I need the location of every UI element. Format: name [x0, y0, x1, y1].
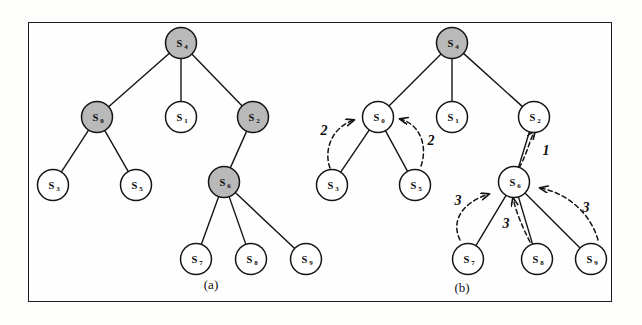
tree-edge [61, 130, 88, 172]
node-subscript: 3 [56, 185, 60, 193]
nodes-layer: S4S0S1S2S3S5S6S7S8S9S4S0S1S2S3S5S6S7S8S9 [38, 28, 607, 275]
tree-edge [229, 197, 246, 245]
node-label: S [247, 254, 253, 265]
tree-edge [105, 130, 129, 171]
node-label: S [192, 254, 198, 265]
node-label: S [49, 180, 55, 191]
node-subscript: 2 [256, 117, 260, 125]
tree-node-s0[interactable]: S0 [363, 102, 394, 133]
node-subscript: 5 [139, 185, 143, 193]
caption-b: (b) [454, 280, 469, 295]
arrow-s5-to-s0-label: 2 [427, 133, 435, 148]
node-subscript: 1 [455, 117, 459, 125]
tree-node-s6[interactable]: S6 [209, 167, 240, 198]
node-subscript: 9 [309, 259, 313, 267]
node-subscript: 3 [335, 185, 339, 193]
node-subscript: 5 [418, 185, 422, 193]
tree-edge [201, 197, 218, 245]
tree-node-s8[interactable]: S8 [522, 244, 553, 275]
tree-edge [109, 53, 170, 107]
tree-diagram-svg: 221333 S4S0S1S2S3S5S6S7S8S9S4S0S1S2S3S5S… [0, 0, 642, 325]
figure-container: 221333 S4S0S1S2S3S5S6S7S8S9S4S0S1S2S3S5S… [0, 0, 642, 325]
arrow-s5-to-s0 [400, 119, 423, 166]
tree-node-s2[interactable]: S2 [519, 102, 550, 133]
tree-node-s7[interactable]: S7 [453, 244, 484, 275]
tree-node-s5[interactable]: S5 [121, 170, 152, 201]
node-label: S [220, 177, 226, 188]
node-label: S [132, 180, 138, 191]
node-subscript: 0 [100, 117, 104, 125]
arrow-s8-to-s6-label: 3 [502, 216, 510, 231]
node-subscript: 8 [540, 259, 544, 267]
node-label: S [302, 254, 308, 265]
node-label: S [177, 112, 183, 123]
node-subscript: 8 [254, 259, 258, 267]
arrow-s7-to-s6-label: 3 [454, 193, 462, 208]
tree-node-s4[interactable]: S4 [166, 28, 197, 59]
node-label: S [411, 180, 417, 191]
tree-node-s6[interactable]: S6 [499, 167, 530, 198]
tree-edge [341, 130, 370, 172]
node-subscript: 4 [184, 43, 188, 51]
node-label: S [530, 112, 536, 123]
tree-edge [230, 131, 246, 168]
node-subscript: 2 [537, 117, 541, 125]
caption-a: (a) [204, 277, 218, 292]
tree-node-s8[interactable]: S8 [236, 244, 267, 275]
node-subscript: 4 [455, 43, 459, 51]
node-subscript: 7 [199, 259, 203, 267]
node-label: S [448, 112, 454, 123]
arrow-s3-to-s0-label: 2 [320, 123, 328, 138]
tree-node-s4[interactable]: S4 [437, 28, 468, 59]
node-subscript: 9 [594, 259, 598, 267]
node-subscript: 1 [184, 117, 188, 125]
tree-node-s2[interactable]: S2 [238, 102, 269, 133]
node-label: S [249, 112, 255, 123]
node-label: S [328, 180, 334, 191]
tree-node-s3[interactable]: S3 [38, 170, 69, 201]
tree-node-s1[interactable]: S1 [437, 102, 468, 133]
arrow-s8-to-s6 [513, 198, 530, 242]
tree-node-s3[interactable]: S3 [317, 170, 348, 201]
tree-node-s7[interactable]: S7 [181, 244, 212, 275]
node-label: S [587, 254, 593, 265]
arrow-s3-to-s0 [328, 120, 354, 168]
arrow-s9-to-s6-label: 3 [582, 200, 590, 215]
arrow-s6-to-s2 [519, 131, 535, 168]
tree-node-s1[interactable]: S1 [166, 102, 197, 133]
tree-edge [385, 131, 407, 172]
node-subscript: 7 [471, 259, 475, 267]
node-label: S [464, 254, 470, 265]
node-label: S [533, 254, 539, 265]
node-label: S [510, 177, 516, 188]
node-subscript: 6 [227, 182, 231, 190]
node-subscript: 6 [517, 182, 521, 190]
tree-edge [192, 54, 242, 106]
tree-edge [464, 53, 523, 106]
tree-node-s9[interactable]: S9 [576, 244, 607, 275]
tree-node-s9[interactable]: S9 [291, 244, 322, 275]
tree-node-s5[interactable]: S5 [400, 170, 431, 201]
tree-edge [389, 54, 441, 106]
node-subscript: 0 [381, 117, 385, 125]
tree-node-s0[interactable]: S0 [82, 102, 113, 133]
node-label: S [177, 38, 183, 49]
node-label: S [93, 112, 99, 123]
arrow-s6-to-s2-label: 1 [543, 143, 550, 158]
node-label: S [374, 112, 380, 123]
node-label: S [448, 38, 454, 49]
